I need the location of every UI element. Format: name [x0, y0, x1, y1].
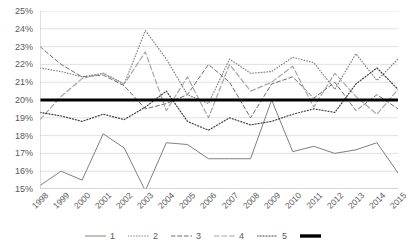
y-tick-label: 21% — [15, 78, 33, 87]
y-tick-label: 19% — [15, 113, 33, 122]
series-line-1 — [40, 100, 398, 189]
series-line-4 — [40, 52, 398, 120]
x-tick-label: 2009 — [262, 191, 282, 211]
legend-swatch-icon — [128, 231, 149, 241]
x-tick-label: 1998 — [31, 191, 51, 211]
x-tick-label: 2008 — [241, 191, 261, 211]
x-tick-label: 2006 — [199, 191, 219, 211]
y-tick-label: 23% — [15, 42, 33, 51]
x-tick-label: 2003 — [136, 191, 156, 211]
y-tick-label: 17% — [15, 149, 33, 158]
y-tick-label: 16% — [15, 167, 33, 176]
legend-label: 1 — [110, 232, 115, 241]
x-tick-label: 2013 — [346, 191, 366, 211]
x-tick-label: 2011 — [305, 191, 324, 210]
x-axis: 1998199920002001200220032004200520062007… — [0, 191, 406, 231]
legend-item-1[interactable]: 1 — [85, 231, 115, 241]
legend-swatch-icon — [214, 231, 235, 241]
legend-swatch-icon — [85, 231, 106, 241]
plot-area — [40, 11, 398, 189]
x-tick-label: 2007 — [220, 191, 240, 211]
legend-item-reference[interactable] — [300, 231, 321, 241]
legend-item-4[interactable]: 4 — [214, 231, 244, 241]
x-tick-label: 2010 — [283, 191, 303, 211]
legend-label: 5 — [282, 232, 287, 241]
legend-item-2[interactable]: 2 — [128, 231, 158, 241]
legend-swatch-icon — [257, 231, 278, 241]
y-axis: 25%24%23%22%21%20%19%18%17%16%15% — [0, 0, 36, 200]
legend-label: 4 — [239, 232, 244, 241]
y-tick-label: 24% — [15, 24, 33, 33]
x-tick-label: 2002 — [115, 191, 135, 211]
legend-swatch-icon — [171, 231, 192, 241]
x-tick-label: 2014 — [368, 191, 388, 211]
y-tick-label: 22% — [15, 60, 33, 69]
series-line-2 — [40, 31, 398, 104]
x-tick-label: 2015 — [389, 191, 408, 211]
legend-label: 2 — [153, 232, 158, 241]
y-tick-label: 18% — [15, 131, 33, 140]
legend-label: 3 — [196, 232, 201, 241]
x-tick-label: 2012 — [325, 191, 345, 211]
x-tick-label: 2005 — [178, 191, 198, 211]
plot-svg — [40, 11, 398, 189]
x-tick-label: 2000 — [73, 191, 93, 211]
x-tick-label: 1999 — [52, 191, 72, 211]
y-tick-label: 25% — [15, 7, 33, 16]
x-tick-label: 2001 — [94, 191, 114, 211]
legend-item-5[interactable]: 5 — [257, 231, 287, 241]
legend-item-3[interactable]: 3 — [171, 231, 201, 241]
chart-legend: 12345 — [0, 226, 406, 246]
x-tick-label: 2004 — [157, 191, 177, 211]
legend-swatch-icon — [300, 231, 321, 241]
y-tick-label: 20% — [15, 96, 33, 105]
series-lines — [40, 31, 398, 189]
